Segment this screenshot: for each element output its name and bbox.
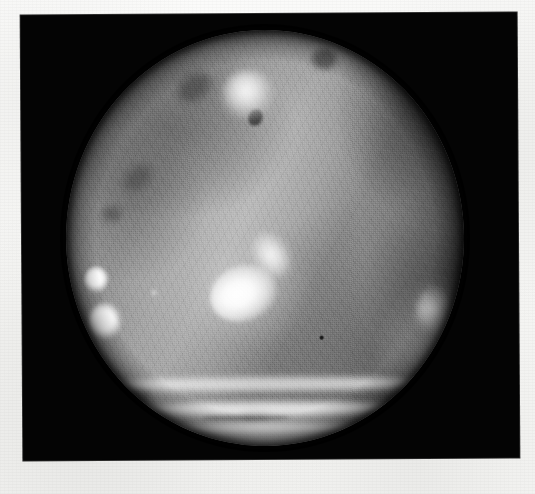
tissue-field	[65, 29, 466, 447]
image-canvas: Grayscale endoscopic photograph showing …	[0, 0, 535, 494]
circular-field-of-view	[65, 29, 466, 447]
field-vignette	[65, 29, 466, 447]
photographic-plate	[21, 12, 520, 460]
